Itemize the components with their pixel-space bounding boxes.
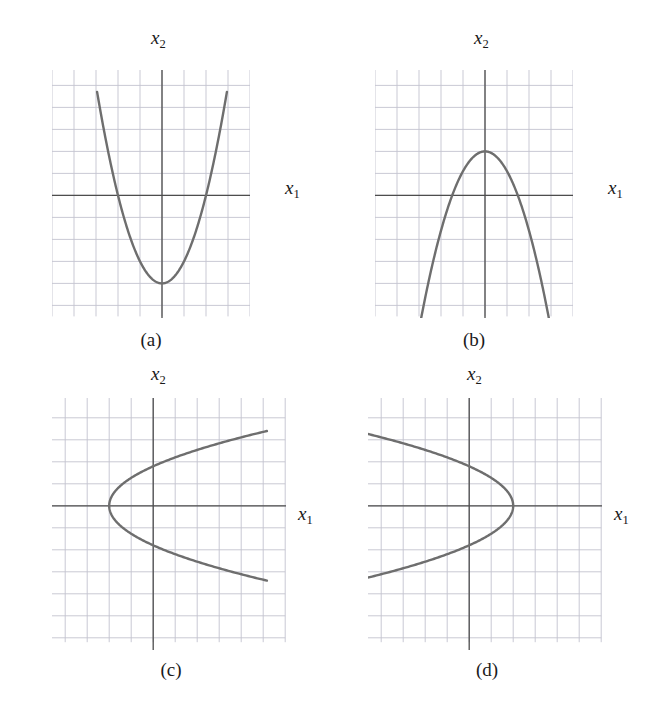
panel-d-caption: (d) bbox=[457, 660, 517, 679]
panel-c bbox=[52, 398, 286, 650]
panel-b-x-axis-label: x1 bbox=[608, 178, 623, 200]
plot-d bbox=[368, 398, 602, 650]
plot-c bbox=[52, 398, 286, 650]
panel-a-y-axis-label: x2 bbox=[151, 28, 166, 50]
figure-parabola-orientations: x2 x1 (a) x2 x1 (b) x2 x1 (c) x2 x1 (d) bbox=[0, 0, 653, 724]
plot-a bbox=[52, 70, 250, 318]
panel-a-caption: (a) bbox=[121, 330, 181, 349]
grid-lines bbox=[368, 398, 601, 642]
panel-d-y-axis-label: x2 bbox=[467, 364, 482, 386]
panel-b-y-axis-label: x2 bbox=[474, 28, 489, 50]
panel-a bbox=[52, 70, 250, 318]
panel-d bbox=[368, 398, 602, 650]
panel-a-x-axis-label: x1 bbox=[285, 178, 300, 200]
panel-c-x-axis-label: x1 bbox=[298, 504, 313, 526]
panel-c-y-axis-label: x2 bbox=[151, 364, 166, 386]
panel-c-caption: (c) bbox=[141, 660, 201, 679]
page-footer-artifact bbox=[200, 707, 470, 717]
panel-d-x-axis-label: x1 bbox=[614, 504, 629, 526]
grid-lines bbox=[375, 70, 573, 316]
plot-b bbox=[375, 70, 573, 318]
panel-b bbox=[375, 70, 573, 318]
panel-b-caption: (b) bbox=[444, 330, 504, 349]
